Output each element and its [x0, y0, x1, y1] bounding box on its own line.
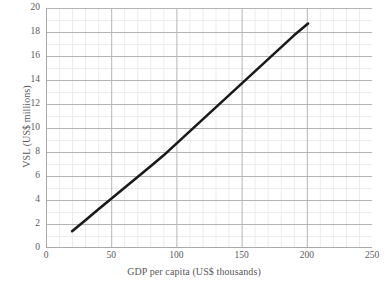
plot-svg — [46, 8, 372, 248]
x-tick-label: 50 — [91, 251, 131, 261]
x-tick-label: 0 — [26, 251, 66, 261]
x-axis-title: GDP per capita (US$ thousands) — [0, 266, 388, 277]
y-axis-title: VSL (US$ millions) — [21, 52, 32, 202]
x-tick-label: 250 — [352, 251, 388, 261]
plot-area — [46, 8, 372, 248]
chart-container: 02468101214161820 050100150200250 GDP pe… — [0, 0, 388, 289]
x-tick-label: 200 — [287, 251, 327, 261]
x-tick-label: 100 — [156, 251, 196, 261]
x-tick-label: 150 — [222, 251, 262, 261]
y-axis-title-wrapper: VSL (US$ millions) — [12, 0, 26, 256]
